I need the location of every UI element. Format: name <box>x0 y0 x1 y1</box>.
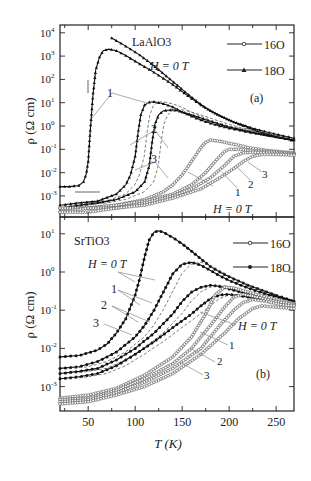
legend-18o: 18O <box>270 261 291 275</box>
curve-label-2: 2 <box>151 122 157 136</box>
y-tick-label: 102 <box>40 72 55 85</box>
curve-label-1b: 1 <box>229 339 235 351</box>
y-tick-label: 10-3 <box>40 189 57 202</box>
curve-label-h0: H = 0 T <box>212 202 253 216</box>
y-tick-label: 101 <box>40 96 55 109</box>
series-line <box>60 287 294 398</box>
panel-b-material-label: SrTiO3 <box>74 234 110 248</box>
curve-label-3: 3 <box>151 152 157 166</box>
y-tick-label: 100 <box>40 265 55 278</box>
y-axis-label-a: ρ (Ω cm) <box>22 97 37 144</box>
y-tick-label: 103 <box>40 49 55 62</box>
panel-b-tag: (b) <box>256 367 270 381</box>
legend-18o: 18O <box>264 64 285 78</box>
panel-a-material-label: LaAlO3 <box>132 35 171 49</box>
open-circle-marker-icon <box>242 42 246 46</box>
series-line <box>60 294 294 400</box>
panel-b-srtio3: 10110010-110-210-3 SrTiO3 H = 0 T (b) 16… <box>40 217 296 411</box>
y-tick-label: 10-2 <box>40 166 57 179</box>
curve-label-2: 2 <box>101 298 107 312</box>
curve-label-2b: 2 <box>248 178 254 190</box>
panel-a-annotations <box>75 80 262 192</box>
y-tick-label: 100 <box>40 119 55 132</box>
y-tick-label: 10-1 <box>40 142 57 155</box>
curve-label-1: 1 <box>111 282 117 296</box>
curve-label-3: 3 <box>93 316 99 330</box>
curve-label-3b: 3 <box>262 168 268 180</box>
legend-16o: 16O <box>270 237 291 251</box>
x-axis-label: T (K) <box>154 436 182 451</box>
legend-16o: 16O <box>264 38 285 52</box>
y-axis-label-b: ρ (Ω cm) <box>22 291 37 338</box>
y-tick-label: 10-3 <box>40 380 57 393</box>
panel-a-field-label: H = 0 T <box>149 59 190 73</box>
open-circle-marker-icon <box>248 241 252 245</box>
curve-label-h0: H = 0 T <box>237 319 278 333</box>
x-tick-label: 150 <box>173 415 191 429</box>
x-tick-label: 100 <box>126 415 144 429</box>
panel-a-y-ticks: 10410310210110010-110-210-3 <box>40 26 294 202</box>
panel-a-legend: 16O 18O <box>227 38 285 78</box>
curve-label-3b: 3 <box>204 369 210 381</box>
curve-label-2b: 2 <box>217 355 223 367</box>
y-tick-label: 101 <box>40 227 55 240</box>
y-tick-label: 104 <box>40 26 55 39</box>
y-tick-label: 10-1 <box>40 303 57 316</box>
panel-a-tag: (a) <box>250 91 263 105</box>
panel-b-field-label: H = 0 T <box>87 257 128 271</box>
resistivity-figure: 10410310210110010-110-210-3 LaAlO3 H = 0… <box>0 0 311 481</box>
y-tick-label: 10-2 <box>40 341 57 354</box>
x-tick-label: 200 <box>220 415 238 429</box>
panel-a-laalo3: 10410310210110010-110-210-3 LaAlO3 H = 0… <box>40 25 296 217</box>
curve-label-1: 1 <box>107 86 113 100</box>
panel-b-legend: 16O 18O <box>233 237 291 275</box>
filled-circle-marker-icon <box>248 265 252 269</box>
x-tick-label: 250 <box>267 415 285 429</box>
panel-a-frame <box>60 25 294 217</box>
curve-label-1b: 1 <box>235 186 241 198</box>
x-tick-label: 50 <box>82 415 94 429</box>
